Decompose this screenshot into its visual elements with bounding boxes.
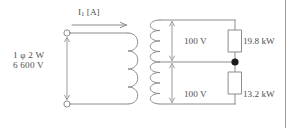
current-label: I1 [A]	[78, 7, 100, 19]
secondary-winding	[150, 20, 160, 104]
current-subscript: 1	[81, 10, 85, 18]
source-voltage: 6 600 V	[13, 60, 44, 70]
source-rating-label: 1 φ 2 W 6 600 V	[13, 50, 44, 71]
diagram-canvas: 1 φ 2 W 6 600 V I1 [A] 100 V 100 V 19.8 …	[0, 0, 292, 128]
load-box-upper	[229, 30, 242, 52]
upper-secondary-voltage-label: 100 V	[184, 36, 207, 46]
lower-secondary-voltage-label: 100 V	[184, 89, 207, 99]
primary-winding	[128, 33, 138, 104]
current-unit: [A]	[87, 7, 100, 17]
lower-load-power-label: 13.2 kW	[243, 89, 275, 99]
terminal-bottom	[64, 101, 70, 107]
source-phase-wire: 1 φ 2 W	[13, 50, 44, 60]
terminal-top	[64, 30, 70, 36]
upper-load-power-label: 19.8 kW	[243, 36, 275, 46]
load-box-lower	[229, 72, 242, 94]
center-tap-node	[231, 58, 238, 65]
